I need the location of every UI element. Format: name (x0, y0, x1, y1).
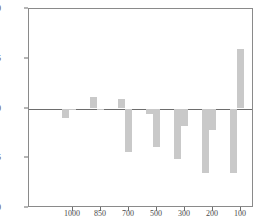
bar-200-bar-a (202, 109, 209, 174)
bar-1000-bar-b (69, 109, 76, 110)
x-tick-mark-850 (100, 207, 101, 211)
x-tick-mark-300 (184, 207, 185, 211)
bar-chart: 200225250275300 1000850700500300200100 (0, 0, 260, 223)
y-tick-label-300: 300 (0, 4, 1, 13)
x-tick-mark-500 (156, 207, 157, 211)
y-tick-label-275: 275 (0, 53, 1, 62)
bar-300-bar-b (181, 109, 188, 127)
bar-850-bar-a (90, 97, 97, 109)
bar-850-bar-b (97, 109, 104, 110)
bar-100-bar-b (237, 49, 244, 109)
bar-500-bar-b (153, 109, 160, 148)
bar-700-bar-a (118, 99, 125, 109)
plot-area (28, 8, 253, 207)
x-tick-mark-100 (240, 207, 241, 211)
y-tick-label-200: 200 (0, 203, 1, 212)
x-tick-mark-200 (212, 207, 213, 211)
bar-1000-bar-a (62, 109, 69, 119)
x-tick-mark-1000 (72, 207, 73, 211)
bar-100-bar-a (230, 109, 237, 174)
bar-300-bar-a (174, 109, 181, 160)
x-tick-mark-700 (128, 207, 129, 211)
bar-200-bar-b (209, 109, 216, 131)
y-tick-label-225: 225 (0, 153, 1, 162)
bar-500-bar-a (146, 109, 153, 115)
y-tick-label-250: 250 (0, 103, 1, 112)
bar-700-bar-b (125, 109, 132, 153)
